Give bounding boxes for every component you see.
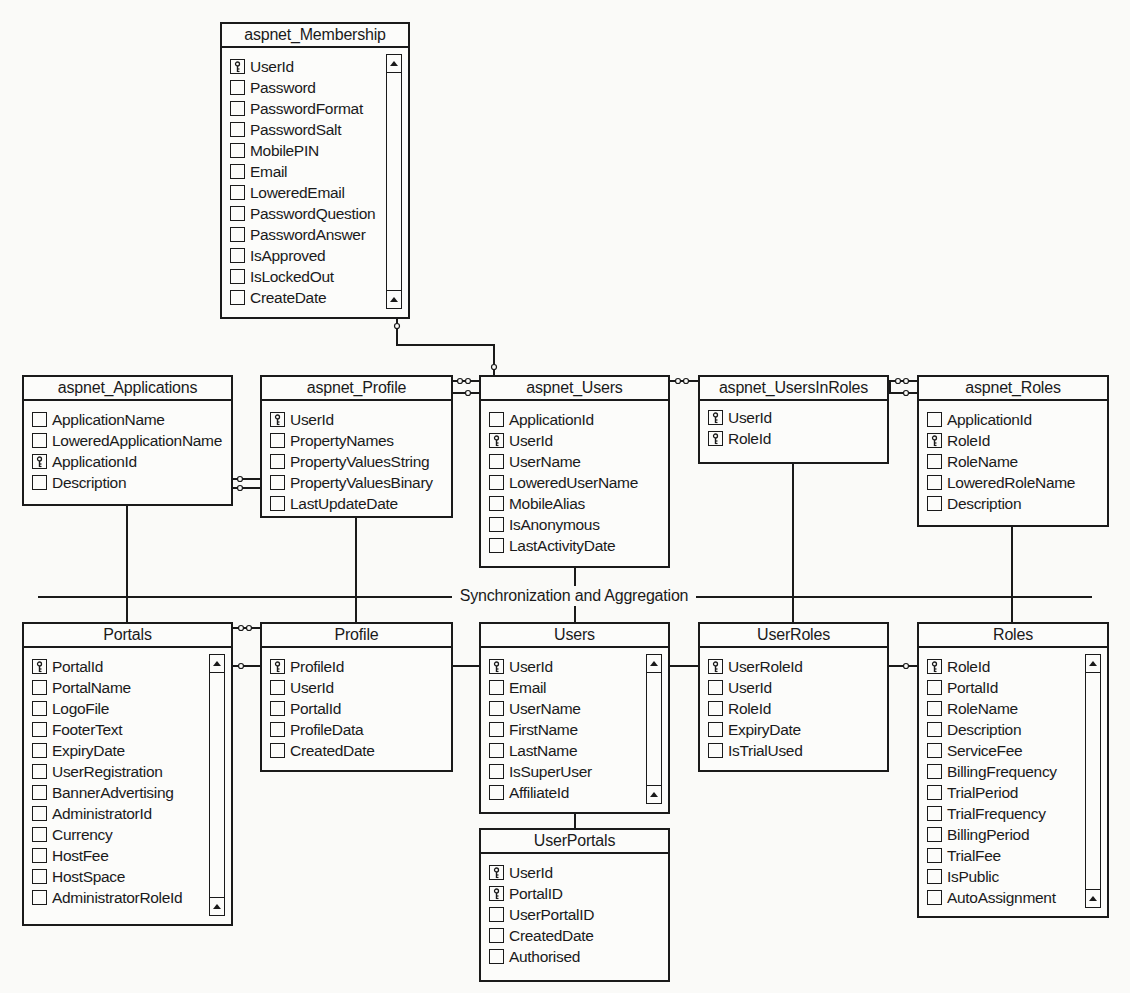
field-checkbox[interactable] <box>32 827 47 842</box>
field-row[interactable]: ExpiryDate <box>708 719 881 740</box>
field-checkbox[interactable] <box>32 680 47 695</box>
field-checkbox[interactable] <box>927 827 942 842</box>
field-row[interactable]: Description <box>927 719 1083 740</box>
table-aspnet-users[interactable]: aspnet_Users ApplicationIdUserIdUserName… <box>479 375 670 568</box>
scrollbar[interactable] <box>646 654 662 804</box>
field-checkbox[interactable] <box>489 785 504 800</box>
field-checkbox[interactable] <box>230 143 245 158</box>
field-row[interactable]: UserId <box>270 677 445 698</box>
field-checkbox[interactable] <box>230 248 245 263</box>
field-checkbox[interactable] <box>927 764 942 779</box>
field-row[interactable]: HostFee <box>32 845 207 866</box>
field-checkbox[interactable] <box>32 701 47 716</box>
primary-key-checkbox[interactable] <box>230 59 245 74</box>
scrollbar[interactable] <box>386 54 402 309</box>
field-row[interactable]: ServiceFee <box>927 740 1083 761</box>
field-checkbox[interactable] <box>270 680 285 695</box>
field-checkbox[interactable] <box>32 722 47 737</box>
field-checkbox[interactable] <box>270 743 285 758</box>
field-row[interactable]: HostSpace <box>32 866 207 887</box>
field-checkbox[interactable] <box>927 869 942 884</box>
field-checkbox[interactable] <box>32 764 47 779</box>
field-row[interactable]: IsTrialUsed <box>708 740 881 761</box>
field-checkbox[interactable] <box>32 806 47 821</box>
field-row[interactable]: Password <box>230 77 384 98</box>
field-row[interactable]: RoleId <box>708 698 881 719</box>
field-checkbox[interactable] <box>489 907 504 922</box>
field-row[interactable]: UserId <box>489 430 662 451</box>
field-checkbox[interactable] <box>927 701 942 716</box>
field-checkbox[interactable] <box>32 785 47 800</box>
field-row[interactable]: Description <box>927 493 1101 514</box>
field-row[interactable]: LastActivityDate <box>489 535 662 556</box>
primary-key-checkbox[interactable] <box>489 865 504 880</box>
field-row[interactable]: PortalID <box>489 883 662 904</box>
field-checkbox[interactable] <box>489 412 504 427</box>
field-row[interactable]: ApplicationId <box>927 409 1101 430</box>
field-checkbox[interactable] <box>927 785 942 800</box>
scroll-up-button[interactable] <box>387 55 401 73</box>
field-row[interactable]: MobileAlias <box>489 493 662 514</box>
field-row[interactable]: AffiliateId <box>489 782 644 803</box>
field-checkbox[interactable] <box>32 890 47 905</box>
field-row[interactable]: IsLockedOut <box>230 266 384 287</box>
field-row[interactable]: IsAnonymous <box>489 514 662 535</box>
field-checkbox[interactable] <box>489 949 504 964</box>
field-checkbox[interactable] <box>230 101 245 116</box>
field-checkbox[interactable] <box>927 412 942 427</box>
field-row[interactable]: PropertyValuesBinary <box>270 472 445 493</box>
field-row[interactable]: ApplicationId <box>489 409 662 430</box>
field-row[interactable]: UserPortalID <box>489 904 662 925</box>
field-checkbox[interactable] <box>230 206 245 221</box>
table-aspnet-applications[interactable]: aspnet_Applications ApplicationNameLower… <box>22 375 233 506</box>
scroll-down-button[interactable] <box>647 785 661 803</box>
field-row[interactable]: UserRegistration <box>32 761 207 782</box>
primary-key-checkbox[interactable] <box>489 886 504 901</box>
field-checkbox[interactable] <box>489 538 504 553</box>
field-row[interactable]: Email <box>489 677 644 698</box>
scroll-up-button[interactable] <box>647 655 661 673</box>
table-roles[interactable]: Roles RoleIdPortalIdRoleNameDescriptionS… <box>917 622 1109 918</box>
scroll-down-button[interactable] <box>387 290 401 308</box>
field-row[interactable]: TrialFrequency <box>927 803 1083 824</box>
field-row[interactable]: RoleId <box>927 430 1101 451</box>
field-row[interactable]: UserId <box>489 862 662 883</box>
field-checkbox[interactable] <box>230 80 245 95</box>
field-checkbox[interactable] <box>230 122 245 137</box>
field-row[interactable]: CreateDate <box>230 287 384 308</box>
field-row[interactable]: RoleName <box>927 698 1083 719</box>
field-checkbox[interactable] <box>230 269 245 284</box>
field-row[interactable]: LastName <box>489 740 644 761</box>
primary-key-checkbox[interactable] <box>927 433 942 448</box>
field-checkbox[interactable] <box>708 701 723 716</box>
field-checkbox[interactable] <box>489 475 504 490</box>
field-row[interactable]: Email <box>230 161 384 182</box>
field-row[interactable]: LoweredUserName <box>489 472 662 493</box>
field-checkbox[interactable] <box>927 454 942 469</box>
field-row[interactable]: FirstName <box>489 719 644 740</box>
field-row[interactable]: PasswordSalt <box>230 119 384 140</box>
field-row[interactable]: PasswordFormat <box>230 98 384 119</box>
table-aspnet-roles[interactable]: aspnet_Roles ApplicationIdRoleIdRoleName… <box>917 375 1109 527</box>
field-checkbox[interactable] <box>270 433 285 448</box>
field-checkbox[interactable] <box>489 454 504 469</box>
scroll-down-button[interactable] <box>1086 889 1100 907</box>
field-row[interactable]: PasswordAnswer <box>230 224 384 245</box>
field-row[interactable]: UserId <box>230 56 384 77</box>
field-checkbox[interactable] <box>708 722 723 737</box>
field-row[interactable]: RoleId <box>708 428 881 449</box>
field-row[interactable]: LoweredApplicationName <box>32 430 225 451</box>
field-checkbox[interactable] <box>927 848 942 863</box>
field-checkbox[interactable] <box>489 701 504 716</box>
field-checkbox[interactable] <box>927 496 942 511</box>
table-userroles[interactable]: UserRoles UserRoleIdUserIdRoleIdExpiryDa… <box>698 622 889 772</box>
field-row[interactable]: MobilePIN <box>230 140 384 161</box>
table-profile[interactable]: Profile ProfileIdUserIdPortalIdProfileDa… <box>260 622 453 772</box>
field-row[interactable]: AdministratorId <box>32 803 207 824</box>
table-aspnet-profile[interactable]: aspnet_Profile UserIdPropertyNamesProper… <box>260 375 453 518</box>
table-aspnet-usersinroles[interactable]: aspnet_UsersInRoles UserIdRoleId <box>698 375 889 464</box>
field-row[interactable]: Authorised <box>489 946 662 967</box>
field-checkbox[interactable] <box>927 475 942 490</box>
field-checkbox[interactable] <box>927 806 942 821</box>
field-checkbox[interactable] <box>270 722 285 737</box>
